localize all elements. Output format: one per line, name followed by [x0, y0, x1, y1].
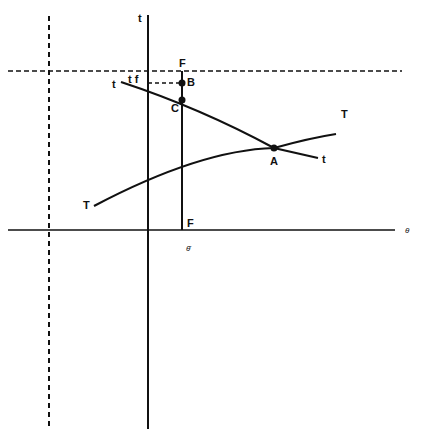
- T-curve-start-label: T: [83, 199, 90, 211]
- theta-bar-label: θ̄: [186, 244, 192, 253]
- theta-axis-label: θ: [405, 226, 410, 235]
- diagram-canvas: t F B C t f t t A T T F θ θ̄: [0, 0, 423, 443]
- point-B: [179, 80, 186, 87]
- t-curve: [121, 82, 318, 158]
- point-C: [179, 97, 186, 104]
- B-label: B: [187, 76, 195, 88]
- t-curve-start-label: t: [112, 78, 116, 90]
- tf-label: t f: [128, 73, 139, 85]
- T-curve: [94, 134, 336, 206]
- t-axis-label: t: [138, 12, 142, 24]
- T-curve-end-label: T: [341, 108, 348, 120]
- A-label: A: [270, 155, 278, 167]
- F-top-label: F: [179, 57, 186, 69]
- C-label: C: [171, 102, 179, 114]
- t-curve-end-label: t: [322, 153, 326, 165]
- F-bottom-label: F: [187, 217, 194, 229]
- point-A: [271, 145, 278, 152]
